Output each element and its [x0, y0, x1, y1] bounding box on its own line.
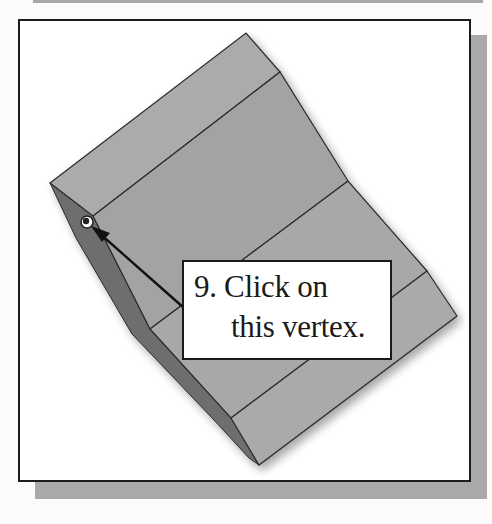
callout-line-2: this vertex.: [231, 309, 365, 345]
sheet-body: [50, 33, 457, 465]
callout-line-1: 9. Click on: [194, 269, 328, 305]
illustration-stage: 9. Click on this vertex.: [0, 0, 492, 524]
instruction-callout: 9. Click on this vertex.: [182, 260, 392, 360]
